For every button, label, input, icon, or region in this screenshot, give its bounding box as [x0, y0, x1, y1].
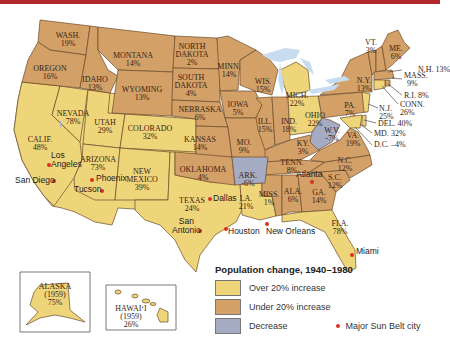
legend: Population change, 1940–1980 Over 20% in… — [215, 264, 440, 335]
label-alaska: ALASKA(1959)75% — [39, 283, 71, 307]
city-dot-dallas — [208, 197, 212, 201]
city-tucson: Tucson — [74, 185, 102, 194]
legend-swatch-under20 — [215, 299, 241, 315]
legend-swatch-decrease — [215, 318, 241, 334]
city-san-diego: San Diego — [15, 176, 55, 185]
label-md: MD. 32% — [374, 130, 406, 138]
legend-sunbelt-city: Major Sun Belt city — [336, 321, 421, 331]
label-hawaii: HAWAIʻI(1959)26% — [115, 305, 146, 329]
city-houston: Houston — [228, 227, 260, 236]
city-san-antonio: SanAntonio — [172, 217, 201, 235]
city-marker-icon — [336, 324, 340, 328]
label-conn: CONN.26% — [400, 101, 425, 117]
city-atlanta: Atlanta — [296, 170, 322, 179]
label-fla: FLA.78% — [331, 220, 348, 236]
legend-item-decrease: Decrease Major Sun Belt city — [215, 316, 440, 335]
city-dot-atlanta — [310, 180, 314, 184]
city-dot-phoenix — [90, 178, 94, 182]
label-mass: MASS.9% — [404, 72, 428, 88]
legend-swatch-over20 — [215, 280, 241, 296]
legend-item-under20: Under 20% increase — [215, 297, 440, 316]
city-phoenix: Phoenix — [96, 174, 127, 183]
label-del: DEL. 40% — [378, 120, 412, 128]
city-dot-miami — [350, 253, 354, 257]
label-dc: D.C. –4% — [374, 141, 406, 149]
city-los-angeles: LosAngeles — [51, 151, 82, 169]
city-new-orleans: New Orleans — [266, 227, 315, 236]
city-dallas: Dallas — [213, 194, 237, 203]
legend-title: Population change, 1940–1980 — [215, 264, 440, 275]
legend-item-over20: Over 20% increase — [215, 278, 440, 297]
label-ri: R.I. 8% — [404, 92, 429, 100]
city-miami: Miami — [356, 247, 379, 256]
